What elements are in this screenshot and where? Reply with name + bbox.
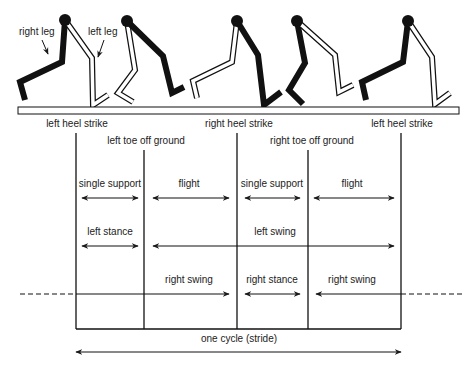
event-left-heel-strike-2: left heel strike xyxy=(371,119,433,129)
left-leg-label: left leg xyxy=(88,27,117,37)
phase-flight-2: flight xyxy=(341,179,362,189)
event-right-heel-strike: right heel strike xyxy=(205,119,273,129)
ground-bar xyxy=(18,107,459,114)
left-leg-pointer xyxy=(98,40,104,57)
phase-left-stance: left stance xyxy=(87,227,133,237)
stride-label: one cycle (stride) xyxy=(201,334,277,344)
phase-flight-1: flight xyxy=(178,179,199,189)
right-leg-label: right leg xyxy=(19,27,55,37)
gait-cycle-diagram xyxy=(0,0,475,372)
phase-left-swing: left swing xyxy=(254,227,296,237)
right-leg-pointer xyxy=(42,40,48,54)
event-right-toe-off: right toe off ground xyxy=(270,136,354,146)
phase-right-swing-1: right swing xyxy=(165,275,213,285)
phase-single-support-2: single support xyxy=(241,179,303,189)
runner-figures xyxy=(20,14,450,105)
event-left-heel-strike-1: left heel strike xyxy=(46,119,108,129)
phase-right-swing-2: right swing xyxy=(328,275,376,285)
runner-figure-3 xyxy=(193,15,281,105)
phase-right-stance: right stance xyxy=(246,275,298,285)
event-left-toe-off: left toe off ground xyxy=(107,136,185,146)
phase-single-support-1: single support xyxy=(79,179,141,189)
runner-figure-2 xyxy=(118,15,184,102)
runner-figure-4 xyxy=(289,15,353,104)
runner-figure-5 xyxy=(362,15,450,104)
